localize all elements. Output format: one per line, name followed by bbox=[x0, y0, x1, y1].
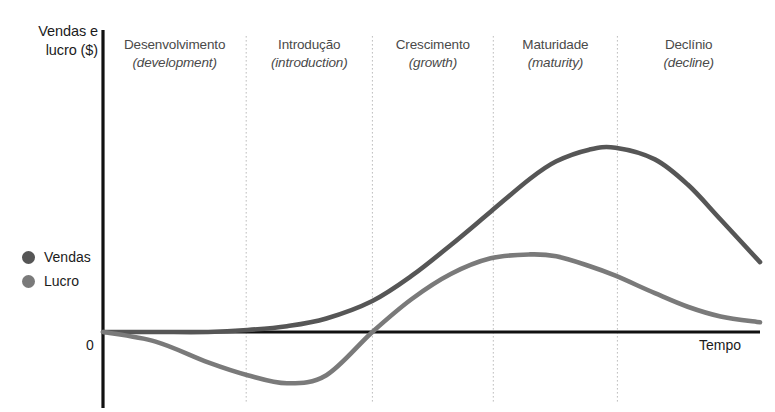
y-axis-title-line-2: lucro ($) bbox=[26, 41, 98, 60]
product-life-cycle-chart: Vendas e lucro ($) 0 Tempo Desenvolvimen… bbox=[0, 0, 775, 412]
phase-label-2: Introdução(introduction) bbox=[246, 36, 372, 88]
chart-legend: VendasLucro bbox=[22, 245, 91, 293]
phase-name: Maturidade bbox=[493, 36, 617, 54]
phase-label-1: Desenvolvimento(development) bbox=[103, 36, 246, 88]
phase-label-5: Declínio(decline) bbox=[617, 36, 760, 88]
phase-name-english: (decline) bbox=[617, 54, 760, 72]
phase-name: Crescimento bbox=[372, 36, 493, 54]
phase-name-english: (maturity) bbox=[493, 54, 617, 72]
legend-swatch-icon bbox=[22, 251, 35, 264]
phase-name: Declínio bbox=[617, 36, 760, 54]
phase-label-4: Maturidade(maturity) bbox=[493, 36, 617, 88]
x-axis-title: Tempo bbox=[699, 337, 741, 353]
phase-name-english: (growth) bbox=[372, 54, 493, 72]
legend-label: Lucro bbox=[44, 273, 79, 289]
phase-name: Introdução bbox=[246, 36, 372, 54]
origin-label: 0 bbox=[86, 337, 94, 353]
phase-name: Desenvolvimento bbox=[103, 36, 246, 54]
legend-item-lucro[interactable]: Lucro bbox=[22, 269, 91, 293]
phase-label-3: Crescimento(growth) bbox=[372, 36, 493, 88]
sales-curve bbox=[103, 147, 760, 332]
legend-item-vendas[interactable]: Vendas bbox=[22, 245, 91, 269]
phase-name-english: (development) bbox=[103, 54, 246, 72]
profit-curve bbox=[103, 254, 760, 383]
y-axis-title-line-1: Vendas e bbox=[26, 22, 98, 41]
legend-label: Vendas bbox=[44, 249, 91, 265]
legend-swatch-icon bbox=[22, 275, 35, 288]
phase-name-english: (introduction) bbox=[246, 54, 372, 72]
y-axis-title: Vendas e lucro ($) bbox=[26, 22, 98, 60]
phase-divider-group bbox=[246, 36, 617, 404]
